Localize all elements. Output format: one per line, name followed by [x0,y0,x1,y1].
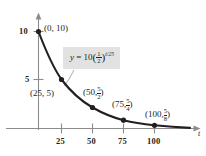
point-label-50: (50,52) [83,86,104,101]
x-axis-label: t [198,130,200,138]
point-label-25-5: (25, 5) [30,89,54,98]
x-tick-label-100: 100 [147,137,160,146]
point-label-100-suffix: ) [167,109,170,119]
exponential-decay-figure: 10 5 25 50 75 100 t (0, 10) (25, 5) (50,… [0,0,206,156]
data-point-25 [59,77,64,82]
y-tick-label-10: 10 [19,27,28,36]
point-label-50-prefix: (50, [83,87,97,97]
point-label-100-denominator: 8 [164,115,167,123]
point-label-100-numerator: 5 [164,108,167,115]
y-axis-arrow-icon [36,13,42,20]
point-label-0-10: (0, 10) [44,24,68,33]
point-label-100-prefix: (100, [145,109,164,119]
point-label-75-denominator: 4 [126,105,129,113]
equation-annotation-box: y = 10(12)t/25 [63,47,120,69]
x-tick-label-75: 75 [118,137,127,146]
point-label-50-suffix: ) [101,87,104,97]
x-tick-label-50: 50 [87,137,96,146]
point-label-75-suffix: ) [130,99,133,109]
point-label-75: (75,54) [112,98,133,113]
data-point-75 [121,118,126,123]
axes-group [6,13,201,134]
point-label-75-fraction: 54 [126,98,129,113]
plot-canvas [0,0,206,156]
equation-y: y [70,52,74,62]
equation-exponent: t/25 [105,51,114,57]
equation-paren-close: ) [102,52,106,63]
data-point-50 [90,105,95,110]
equation-coefficient: 10 [84,52,93,62]
data-point-100 [152,123,157,128]
point-label-50-denominator: 2 [97,93,100,101]
y-tick-label-5: 5 [25,75,29,84]
x-tick-label-25: 25 [56,137,65,146]
point-label-100: (100,58) [145,108,170,123]
point-label-50-fraction: 52 [97,86,100,101]
point-label-100-fraction: 58 [164,108,167,123]
equation-equals: = [76,52,81,62]
point-label-75-numerator: 5 [126,98,129,105]
point-label-75-prefix: (75, [112,99,126,109]
data-point-0 [36,29,41,34]
point-label-50-numerator: 5 [97,86,100,93]
